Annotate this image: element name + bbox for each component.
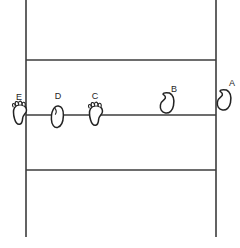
footprint-marker-c[interactable]: C xyxy=(88,91,102,125)
footprint-label-e: E xyxy=(16,92,22,102)
footprint-label-b: B xyxy=(171,84,177,94)
footprint-icon-a xyxy=(217,90,231,110)
footprint-toe-2-c xyxy=(95,102,98,106)
footprint-sole-c xyxy=(89,106,102,125)
footprint-markers: A B C xyxy=(12,78,235,128)
footprint-toe-3-e xyxy=(15,102,18,106)
footprint-label-a: A xyxy=(229,78,235,88)
footprint-marker-e[interactable]: E xyxy=(12,92,26,124)
footprint-sole-d xyxy=(51,106,63,128)
footprint-label-d: D xyxy=(55,91,62,101)
footprint-marker-d[interactable]: D xyxy=(51,91,63,128)
footprint-sole-a xyxy=(217,90,231,110)
court-position-diagram: A B C xyxy=(0,0,240,248)
footprint-sole-b xyxy=(160,93,174,113)
court-diagram-canvas: A B C xyxy=(0,0,240,248)
footprint-label-c: C xyxy=(92,91,99,101)
footprint-toe-3-c xyxy=(91,103,94,107)
footprint-icon-e xyxy=(12,101,26,124)
footprint-marker-b[interactable]: B xyxy=(160,84,177,113)
footprint-toe-1-c xyxy=(98,103,101,106)
footprint-toe-1-e xyxy=(22,102,25,105)
footprint-icon-b xyxy=(160,93,174,113)
footprint-sole-e xyxy=(13,105,26,124)
footprint-icon-c xyxy=(88,102,102,125)
footprint-icon-d xyxy=(51,106,63,128)
footprint-marker-a[interactable]: A xyxy=(217,78,235,110)
